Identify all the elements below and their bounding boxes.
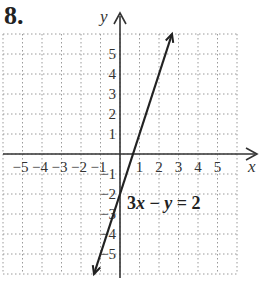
problem-number: 8. — [4, 1, 24, 30]
equation-part: − — [145, 193, 164, 213]
y-tick-label: −1 — [100, 166, 116, 182]
x-tick-label: 5 — [214, 159, 222, 175]
y-tick-label: 3 — [109, 86, 117, 102]
x-tick-label: 4 — [194, 159, 202, 175]
y-tick-label: −2 — [100, 186, 116, 202]
equation-part: x — [135, 193, 145, 213]
x-tick-label: 3 — [175, 159, 183, 175]
equation-part: = 2 — [172, 193, 200, 213]
y-tick-label: 5 — [109, 46, 117, 62]
y-tick-label: 1 — [109, 126, 117, 142]
x-tick-label: 2 — [155, 159, 163, 175]
equation-label: 3x − y = 2 — [127, 193, 201, 213]
y-tick-label: 2 — [109, 106, 117, 122]
coordinate-graph: 8. −5−4−3−2−11234554321−1−2−3−4−5 3x − y… — [0, 0, 265, 284]
y-tick-label: 4 — [109, 66, 117, 82]
y-axis-label: y — [98, 7, 108, 26]
x-tick-label: −2 — [71, 159, 87, 175]
x-tick-label: 1 — [136, 159, 144, 175]
equation-part: 3 — [127, 193, 136, 213]
x-tick-label: −3 — [52, 159, 68, 175]
axes — [3, 13, 257, 278]
x-tick-label: −5 — [13, 159, 29, 175]
x-tick-label: −4 — [32, 159, 48, 175]
x-axis-label: x — [247, 157, 256, 176]
